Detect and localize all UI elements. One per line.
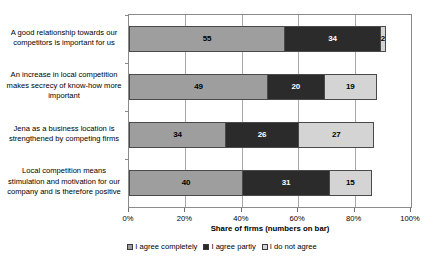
bar-segment: 40 bbox=[129, 170, 242, 196]
x-axis-tick bbox=[297, 208, 298, 212]
bar-segment: 15 bbox=[329, 170, 371, 196]
bar-segment-value: 55 bbox=[203, 35, 212, 43]
bar-segment: 31 bbox=[242, 170, 329, 196]
x-axis-title: Share of firms (numbers on bar) bbox=[128, 224, 412, 233]
x-axis-tick bbox=[410, 208, 411, 212]
bar-segment-value: 15 bbox=[346, 179, 355, 187]
bar-segment: 2 bbox=[380, 26, 386, 52]
legend-swatch-icon bbox=[203, 244, 209, 250]
chart-legend: I agree completelyI agree partlyI do not… bbox=[0, 243, 444, 251]
legend-label: I agree partly bbox=[211, 243, 255, 251]
bar-segment-value: 26 bbox=[258, 131, 267, 139]
y-axis-tick bbox=[125, 15, 129, 16]
category-label: An increase in local competition makes s… bbox=[4, 70, 124, 102]
x-axis-tick bbox=[128, 208, 129, 212]
legend-label: I do not agree bbox=[270, 243, 317, 251]
stacked-bar: 492019 bbox=[129, 74, 377, 100]
x-axis-tick-label: 60% bbox=[290, 214, 305, 223]
bar-segment: 55 bbox=[129, 26, 284, 52]
legend-label: I agree completely bbox=[135, 243, 197, 251]
x-axis-tick-label: 20% bbox=[177, 214, 192, 223]
bar-segment-value: 2 bbox=[381, 35, 385, 43]
bar-segment: 27 bbox=[298, 122, 374, 148]
legend-swatch-icon bbox=[127, 244, 133, 250]
bar-segment: 26 bbox=[225, 122, 298, 148]
stacked-bar-chart: 55342492019342627403115 A good relations… bbox=[0, 0, 444, 264]
stacked-bar: 403115 bbox=[129, 170, 372, 196]
category-label: A good relationship towards our competit… bbox=[4, 28, 124, 49]
legend-swatch-icon bbox=[262, 244, 268, 250]
bar-segment: 19 bbox=[324, 74, 378, 100]
x-axis-tick-label: 0% bbox=[123, 214, 134, 223]
bar-segment-value: 20 bbox=[292, 83, 301, 91]
bar-row: 55342 bbox=[129, 15, 411, 63]
stacked-bar: 55342 bbox=[129, 26, 386, 52]
plot-area: 55342492019342627403115 bbox=[128, 14, 412, 208]
bar-segment: 34 bbox=[284, 26, 380, 52]
bar-segment-value: 34 bbox=[328, 35, 337, 43]
y-axis-tick bbox=[125, 111, 129, 112]
bar-row: 342627 bbox=[129, 111, 411, 159]
bar-segment-value: 19 bbox=[346, 83, 355, 91]
x-axis-tick bbox=[241, 208, 242, 212]
category-label: Local competition means stimulation and … bbox=[4, 166, 124, 198]
stacked-bar: 342627 bbox=[129, 122, 374, 148]
y-axis-tick bbox=[125, 63, 129, 64]
bar-segment-value: 34 bbox=[173, 131, 182, 139]
x-axis-tick-label: 80% bbox=[346, 214, 361, 223]
bar-segment: 20 bbox=[267, 74, 323, 100]
x-axis-tick-label: 100% bbox=[400, 214, 419, 223]
y-axis-tick bbox=[125, 159, 129, 160]
bar-segment: 49 bbox=[129, 74, 267, 100]
bar-segment-value: 40 bbox=[182, 179, 191, 187]
bar-segment-value: 27 bbox=[332, 131, 341, 139]
legend-item[interactable]: I agree completely bbox=[127, 243, 197, 251]
legend-item[interactable]: I do not agree bbox=[262, 243, 317, 251]
x-axis-tick bbox=[354, 208, 355, 212]
legend-item[interactable]: I agree partly bbox=[203, 243, 255, 251]
x-axis-tick bbox=[184, 208, 185, 212]
bar-row: 403115 bbox=[129, 159, 411, 207]
bar-segment-value: 31 bbox=[282, 179, 291, 187]
bar-segment-value: 49 bbox=[194, 83, 203, 91]
bar-row: 492019 bbox=[129, 63, 411, 111]
x-axis-tick-label: 40% bbox=[233, 214, 248, 223]
bar-segment: 34 bbox=[129, 122, 225, 148]
category-label: Jena as a business location is strengthe… bbox=[4, 124, 124, 145]
